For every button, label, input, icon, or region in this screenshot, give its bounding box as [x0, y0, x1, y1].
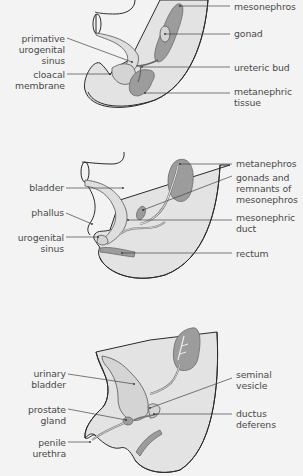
label-phallus: phallus	[10, 207, 64, 218]
label-urogenital-sinus: urogenital sinus	[0, 232, 64, 254]
label-rectum: rectum	[236, 248, 268, 259]
label-penile-urethra: penile urethra	[10, 437, 66, 459]
metanephros-organ	[168, 159, 193, 201]
label-mesonephric-duct: mesonephric duct	[236, 212, 295, 234]
label-ureteric-bud: ureteric bud	[234, 62, 290, 73]
label-bladder: bladder	[10, 182, 64, 193]
embryo-body-outline	[94, 165, 230, 278]
urogenital-development-diagram: primative urogenital sinus cloacal membr…	[0, 0, 303, 476]
kidney-organ	[173, 328, 200, 371]
label-seminal-vesicle: seminal vesicle	[236, 369, 272, 391]
label-prostate-gland: prostate gland	[10, 404, 66, 426]
label-metanephros: metanephros	[236, 158, 297, 169]
label-urinary-bladder: urinary bladder	[10, 368, 66, 390]
prostate-gland-organ	[123, 417, 133, 425]
label-primative-urogenital-sinus: primative urogenital sinus	[10, 33, 65, 66]
label-gonad: gonad	[234, 28, 263, 39]
label-metanephric-tissue: metanephric tissue	[234, 86, 292, 108]
label-cloacal-membrane: cloacal membrane	[10, 69, 65, 91]
label-mesonephros: mesonephros	[234, 1, 296, 12]
label-gonads-and-remnants-of-mesonephros: gonads and remnants of mesonephros	[236, 172, 298, 205]
label-ductus-deferens: ductus deferens	[236, 408, 276, 430]
